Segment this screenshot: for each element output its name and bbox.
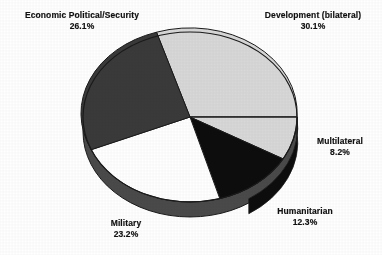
pie-chart-figure: Economic Political/Security 26.1% Develo…: [0, 0, 382, 255]
pie-label-multilateral-name: Multilateral: [300, 136, 380, 147]
pie-label-development-name: Development (bilateral): [246, 10, 380, 21]
pie-label-humanitarian-value: 12.3%: [250, 217, 360, 228]
pie-label-military: Military 23.2%: [84, 218, 168, 240]
pie-label-economic-political-security: Economic Political/Security 26.1%: [6, 10, 158, 32]
pie-label-military-name: Military: [84, 218, 168, 229]
pie-label-humanitarian: Humanitarian 12.3%: [250, 206, 360, 228]
pie-label-multilateral: Multilateral 8.2%: [300, 136, 380, 158]
pie-label-multilateral-value: 8.2%: [300, 147, 380, 158]
pie-label-development-value: 30.1%: [246, 21, 380, 32]
pie-label-economic-political-security-value: 26.1%: [6, 21, 158, 32]
pie-label-development: Development (bilateral) 30.1%: [246, 10, 380, 32]
pie-label-economic-political-security-name: Economic Political/Security: [6, 10, 158, 21]
pie-label-humanitarian-name: Humanitarian: [250, 206, 360, 217]
pie-label-military-value: 23.2%: [84, 229, 168, 240]
